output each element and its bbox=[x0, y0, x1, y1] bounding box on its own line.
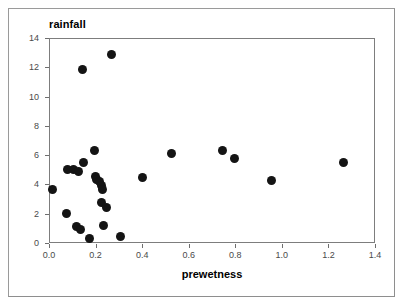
y-tick-label: 6 bbox=[15, 151, 39, 160]
y-tick-mark bbox=[45, 67, 49, 68]
x-tick-label: 0.0 bbox=[34, 251, 64, 260]
y-tick-mark bbox=[45, 184, 49, 185]
data-point bbox=[98, 185, 107, 194]
x-tick-mark bbox=[235, 244, 236, 248]
data-point bbox=[99, 221, 108, 230]
data-point bbox=[107, 50, 116, 59]
data-point bbox=[79, 158, 88, 167]
data-point bbox=[116, 232, 125, 241]
y-tick-label: 0 bbox=[15, 239, 39, 248]
x-tick-label: 0.4 bbox=[127, 251, 157, 260]
data-point bbox=[102, 203, 111, 212]
data-point bbox=[76, 225, 85, 234]
x-tick-mark bbox=[96, 244, 97, 248]
data-point bbox=[267, 176, 276, 185]
data-point bbox=[167, 149, 176, 158]
data-point bbox=[218, 146, 227, 155]
x-tick-mark bbox=[49, 244, 50, 248]
x-tick-label: 0.8 bbox=[220, 251, 250, 260]
y-tick-label: 14 bbox=[15, 34, 39, 43]
x-tick-label: 1.0 bbox=[267, 251, 297, 260]
data-point bbox=[48, 185, 57, 194]
data-point bbox=[339, 158, 348, 167]
data-point bbox=[85, 234, 94, 243]
y-tick-label: 8 bbox=[15, 122, 39, 131]
x-tick-mark bbox=[282, 244, 283, 248]
x-tick-mark bbox=[375, 244, 376, 248]
x-tick-mark bbox=[328, 244, 329, 248]
data-point bbox=[90, 146, 99, 155]
y-tick-label: 12 bbox=[15, 63, 39, 72]
x-tick-label: 1.2 bbox=[313, 251, 343, 260]
x-tick-label: 1.4 bbox=[360, 251, 390, 260]
y-tick-label: 2 bbox=[15, 210, 39, 219]
y-tick-mark bbox=[45, 214, 49, 215]
y-tick-mark bbox=[45, 126, 49, 127]
x-tick-label: 0.2 bbox=[81, 251, 111, 260]
x-axis-label: prewetness bbox=[49, 268, 375, 280]
y-tick-mark bbox=[45, 97, 49, 98]
data-point bbox=[230, 154, 239, 163]
data-point bbox=[74, 167, 83, 176]
x-tick-mark bbox=[142, 244, 143, 248]
y-tick-mark bbox=[45, 38, 49, 39]
x-tick-label: 0.6 bbox=[174, 251, 204, 260]
scatter-plot-figure: rainfall 02468101214 0.00.20.40.60.81.01… bbox=[0, 0, 403, 306]
data-point bbox=[62, 209, 71, 218]
data-point bbox=[138, 173, 147, 182]
x-tick-mark bbox=[189, 244, 190, 248]
plot-data-area bbox=[49, 38, 375, 243]
y-tick-label: 10 bbox=[15, 93, 39, 102]
y-tick-mark bbox=[45, 155, 49, 156]
chart-title: rainfall bbox=[49, 18, 86, 30]
data-point bbox=[78, 65, 87, 74]
y-tick-label: 4 bbox=[15, 180, 39, 189]
